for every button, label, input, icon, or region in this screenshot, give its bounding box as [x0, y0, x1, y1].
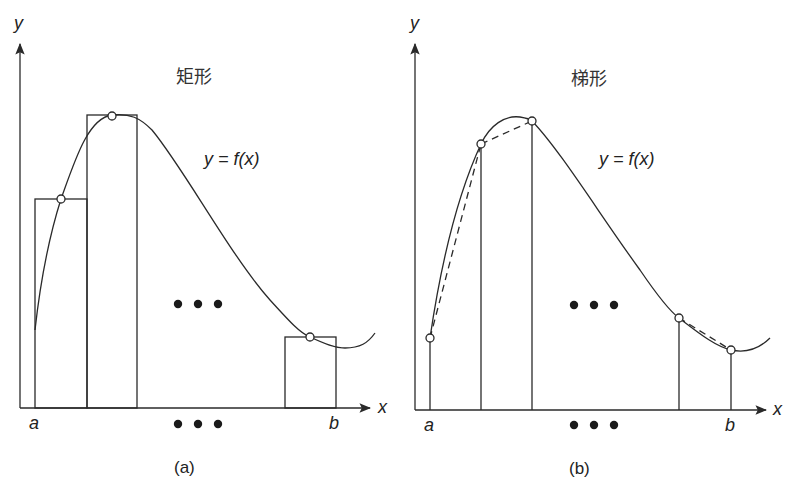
y-axis-label-b: y	[410, 14, 419, 32]
bound-a-label-b: a	[424, 416, 434, 434]
x-axis-label-b: x	[773, 400, 782, 418]
function-label-a: y = f(x)	[204, 150, 260, 168]
y-axis-label-a: y	[14, 14, 23, 32]
caption-a: (a)	[174, 459, 195, 476]
panel-b	[415, 44, 770, 410]
ellipsis-dots-middle-b	[570, 301, 618, 309]
sample-point	[57, 195, 65, 203]
sample-point	[477, 140, 485, 148]
rectangle-strip-1	[35, 199, 87, 408]
sample-point	[727, 346, 735, 354]
trapezoid-chord	[679, 318, 731, 350]
caption-b: (b)	[569, 460, 590, 477]
x-axis-label-a: x	[378, 398, 387, 416]
sample-point	[528, 117, 536, 125]
ellipsis-dots-axis-a	[174, 420, 222, 428]
bound-a-label-a: a	[29, 414, 39, 432]
sample-point	[675, 314, 683, 322]
ellipsis-dots-axis-b	[570, 421, 618, 429]
bound-b-label-b: b	[725, 416, 735, 434]
rectangle-strip-2	[87, 115, 137, 408]
function-label-b: y = f(x)	[599, 150, 655, 168]
rectangle-strip-n	[285, 337, 336, 408]
bound-b-label-a: b	[329, 414, 339, 432]
sample-point	[306, 333, 314, 341]
panel-title-b: 梯形	[571, 70, 607, 88]
sample-point	[108, 112, 116, 120]
sample-point	[426, 334, 434, 342]
panel-title-a: 矩形	[176, 68, 212, 86]
diagram-canvas	[0, 0, 790, 489]
panel-a	[20, 44, 375, 408]
ellipsis-dots-middle-a	[174, 300, 222, 308]
trapezoid-chord	[430, 144, 481, 338]
